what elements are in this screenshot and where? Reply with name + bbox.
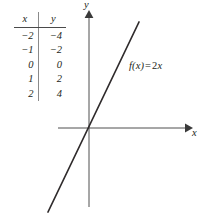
cartesian-plot: x y f(x)=2x bbox=[0, 0, 204, 224]
y-axis-arrow-icon bbox=[85, 10, 94, 18]
function-figure: x y −2 −4 −1 −2 0 0 1 2 2 4 bbox=[0, 0, 204, 224]
function-line bbox=[48, 22, 139, 212]
term-variable: x bbox=[157, 60, 162, 71]
equals-sign: = bbox=[144, 60, 152, 71]
x-axis-label: x bbox=[191, 127, 197, 138]
function-equation-label: f(x)=2x bbox=[129, 60, 162, 71]
y-axis-label: y bbox=[83, 0, 89, 10]
